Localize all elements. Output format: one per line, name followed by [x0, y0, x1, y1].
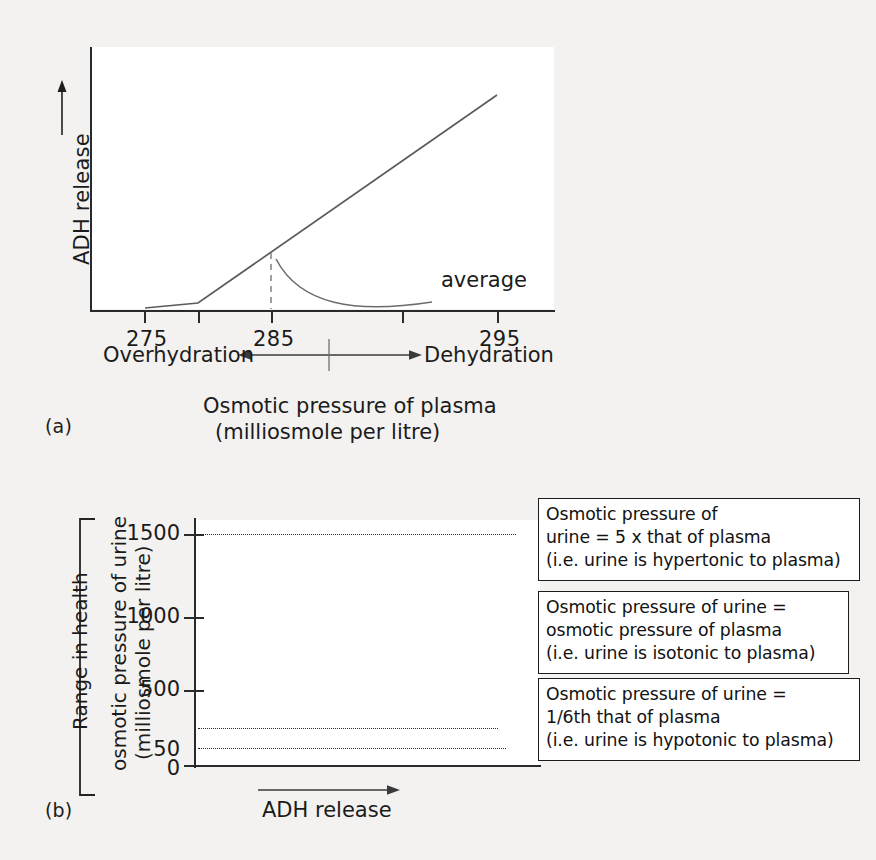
panel-b-range-in-health-label: Range in health — [68, 572, 92, 730]
panel-b-x-axis-label: ADH release — [262, 798, 392, 824]
callout-isotonic-line3: (i.e. urine is isotonic to plasma) — [546, 642, 842, 665]
panel-b-plot-area — [195, 520, 540, 767]
callout-hypertonic-line3: (i.e. urine is hypertonic to plasma) — [546, 549, 853, 572]
panel-b-refline-hypotonic — [198, 748, 506, 749]
panel-a-x-tick-280 — [198, 312, 200, 323]
panel-b-y-axis — [194, 518, 196, 768]
panel-a-hydration-arrow-icon — [238, 350, 422, 360]
panel-a-x-tick-275 — [144, 312, 146, 323]
panel-a-caption-line1: Osmotic pressure of plasma — [203, 394, 497, 420]
panel-b-letter: (b) — [45, 799, 73, 822]
panel-b-y-axis-label-line1: osmotic pressure of urine — [107, 516, 131, 771]
panel-b-y-tick-1000 — [184, 617, 204, 619]
panel-b-refline-isotonic — [198, 728, 498, 729]
panel-b-y-tick-500 — [184, 690, 204, 692]
panel-a-y-axis-label: ADH release — [70, 133, 94, 265]
panel-b-refline-hypertonic — [198, 534, 516, 535]
panel-a-y-axis-arrow-icon — [58, 80, 67, 135]
panel-a-caption-line2: (milliosmole per litre) — [215, 420, 440, 446]
panel-a-dehydration-label: Dehydration — [424, 343, 554, 369]
callout-hypotonic: Osmotic pressure of urine = 1/6th that o… — [538, 678, 860, 761]
panel-a-average-label: average — [441, 268, 527, 294]
callout-isotonic: Osmotic pressure of urine = osmotic pres… — [538, 591, 849, 674]
panel-a-x-tick-285 — [271, 312, 273, 323]
panel-b-x-axis-arrow-icon — [258, 785, 400, 795]
panel-a-letter: (a) — [45, 415, 72, 438]
callout-hypertonic-line1: Osmotic pressure of — [546, 503, 853, 526]
panel-b-x-axis — [186, 765, 541, 767]
callout-hypotonic-line2: 1/6th that of plasma — [546, 706, 853, 729]
panel-a-x-tick-290 — [402, 312, 404, 323]
callout-hypertonic: Osmotic pressure of urine = 5 x that of … — [538, 498, 860, 581]
panel-a-overhydration-label: Overhydration — [103, 343, 254, 369]
panel-b-y-axis-label-line2: (milliosmole per litre) — [131, 545, 155, 760]
callout-hypertonic-line2: urine = 5 x that of plasma — [546, 526, 853, 549]
figure-root: ADH release 275 285 295 average Overhydr… — [0, 0, 876, 860]
panel-a-x-tick-label-1: 285 — [253, 327, 295, 351]
panel-a-x-axis — [91, 310, 555, 312]
panel-a-x-tick-295 — [497, 312, 499, 323]
panel-b-y-tick-0 — [184, 765, 204, 767]
callout-isotonic-line1: Osmotic pressure of urine = — [546, 596, 842, 619]
callout-hypotonic-line3: (i.e. urine is hypotonic to plasma) — [546, 729, 853, 752]
callout-isotonic-line2: osmotic pressure of plasma — [546, 619, 842, 642]
callout-hypotonic-line1: Osmotic pressure of urine = — [546, 683, 853, 706]
